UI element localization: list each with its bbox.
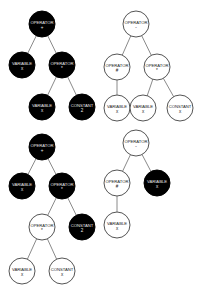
tree-node-operator: OPERATOR*	[49, 52, 75, 78]
expression-tree-diagram: OPERATOR+VARIABLExOPERATOR*VARIABLExCONS…	[0, 0, 200, 298]
node-kind-label: OPERATOR	[30, 223, 53, 228]
node-value-label: *	[61, 187, 63, 192]
tree-bottom-right: OPERATOR-OPERATOR#VARIABLExVARIABLEx	[104, 130, 170, 238]
node-value-label: *	[156, 68, 158, 73]
node-value-label: +	[41, 148, 44, 153]
tree-top-right: OPERATOR-OPERATOR#OPERATOR*VARIABLExVARI…	[104, 11, 193, 121]
tree-node-variable: VARIABLEx	[144, 170, 170, 196]
node-kind-label: VARIABLE	[12, 182, 32, 187]
node-kind-label: CONSTANT	[71, 103, 94, 108]
node-kind-label: OPERATOR	[105, 63, 128, 68]
tree-node-variable: VARIABLEx	[9, 52, 35, 78]
node-kind-label: OPERATOR	[50, 182, 73, 187]
node-kind-label: VARIABLE	[12, 61, 32, 66]
tree-node-operator: OPERATOR#	[104, 54, 130, 80]
node-kind-label: CONSTANT	[71, 223, 94, 228]
tree-top-left: OPERATOR+VARIABLExOPERATOR*VARIABLExCONS…	[9, 11, 95, 120]
node-value-label: *	[41, 228, 43, 233]
node-kind-label: CONSTANT	[169, 104, 192, 109]
node-kind-label: OPERATOR	[30, 143, 53, 148]
tree-node-variable: VARIABLEx	[130, 95, 156, 121]
tree-node-constant: CONSTANT2	[69, 214, 95, 240]
node-value-label: +	[41, 25, 44, 30]
tree-node-operator: OPERATOR+	[29, 11, 55, 37]
tree-node-constant: CONSTANTx	[167, 95, 193, 121]
node-kind-label: OPERATOR	[145, 63, 168, 68]
tree-node-operator: OPERATOR*	[144, 54, 170, 80]
node-kind-label: OPERATOR	[105, 179, 128, 184]
tree-node-variable: VARIABLEx	[9, 173, 35, 199]
tree-node-operator: OPERATOR#	[104, 170, 130, 196]
tree-node-variable: VARIABLEx	[9, 258, 35, 284]
node-kind-label: VARIABLE	[133, 104, 153, 109]
node-kind-label: VARIABLE	[32, 103, 52, 108]
tree-node-operator: OPERATOR+	[29, 134, 55, 160]
tree-node-operator: OPERATOR-	[123, 130, 149, 156]
node-kind-label: VARIABLE	[12, 267, 32, 272]
tree-node-variable: VARIABLEx	[104, 95, 130, 121]
nodes-layer: OPERATOR+VARIABLExOPERATOR*VARIABLExCONS…	[9, 11, 193, 284]
node-kind-label: OPERATOR	[124, 20, 147, 25]
tree-bottom-left: OPERATOR+VARIABLExOPERATOR*OPERATOR*CONS…	[9, 134, 95, 284]
node-value-label: *	[61, 66, 63, 71]
node-kind-label: VARIABLE	[107, 104, 127, 109]
node-kind-label: VARIABLE	[147, 179, 167, 184]
tree-node-operator: OPERATOR*	[29, 214, 55, 240]
tree-node-constant: CONSTANT2	[69, 94, 95, 120]
tree-node-variable: VARIABLEx	[104, 212, 130, 238]
tree-node-variable: VARIABLEx	[29, 94, 55, 120]
node-kind-label: OPERATOR	[124, 139, 147, 144]
tree-node-constant: CONSTANTx	[49, 258, 75, 284]
tree-node-operator: OPERATOR*	[49, 173, 75, 199]
node-kind-label: OPERATOR	[50, 61, 73, 66]
tree-node-operator: OPERATOR-	[123, 11, 149, 37]
node-kind-label: OPERATOR	[30, 20, 53, 25]
node-kind-label: CONSTANT	[51, 267, 74, 272]
node-kind-label: VARIABLE	[107, 221, 127, 226]
